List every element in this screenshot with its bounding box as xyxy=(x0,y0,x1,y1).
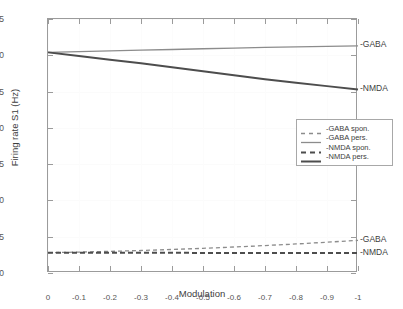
x-tick-label: -0.7 xyxy=(250,294,280,302)
y-tick-label: 30 xyxy=(0,51,4,60)
legend-item[interactable]: -NMDA pers. xyxy=(300,152,388,161)
plot-area: 05101520253035 0-0.1-0.2-0.3-0.4-0.5-0.6… xyxy=(47,18,357,272)
x-tick-label: 0 xyxy=(33,294,63,302)
series-line xyxy=(48,52,358,89)
x-tick-label: -0.3 xyxy=(126,294,156,302)
y-tick-label: 20 xyxy=(0,124,4,133)
legend-item-label: -GABA pers. xyxy=(326,133,368,142)
legend-item-label: -NMDA spon. xyxy=(326,143,371,152)
y-tick-label: 10 xyxy=(0,196,4,205)
y-tick-label: 15 xyxy=(0,160,4,169)
edge-annotation-label: -NMDA xyxy=(360,84,388,93)
x-tick-label: -0.5 xyxy=(188,294,218,302)
series-line xyxy=(48,46,358,53)
x-tick-label: -0.9 xyxy=(312,294,342,302)
y-tick-mark-right xyxy=(351,273,356,274)
legend-item-label: -NMDA pers. xyxy=(326,152,369,161)
legend-line-swatch xyxy=(300,133,322,142)
gridline-horizontal xyxy=(48,273,356,274)
y-tick-mark xyxy=(48,273,53,274)
edge-annotation-label: -GABA xyxy=(360,235,386,244)
legend-item[interactable]: -NMDA spon. xyxy=(300,143,388,152)
y-tick-label: 25 xyxy=(0,88,4,97)
legend-line-swatch xyxy=(300,124,322,133)
legend-line-swatch xyxy=(300,152,322,161)
series-line xyxy=(48,240,358,252)
y-tick-label: 5 xyxy=(0,233,4,242)
legend-box[interactable]: -GABA spon.-GABA pers.-NMDA spon.-NMDA p… xyxy=(296,119,393,166)
y-tick-label: 35 xyxy=(0,15,4,24)
edge-annotation-label: -NMDA xyxy=(360,248,388,257)
x-tick-label: -1 xyxy=(343,294,373,302)
legend-item[interactable]: -GABA pers. xyxy=(300,133,388,142)
x-tick-label: -0.6 xyxy=(219,294,249,302)
legend-item-label: -GABA spon. xyxy=(326,124,369,133)
x-tick-mark xyxy=(358,266,359,271)
legend-item[interactable]: -GABA spon. xyxy=(300,124,388,133)
x-tick-mark-top xyxy=(358,19,359,24)
edge-annotation-label: -GABA xyxy=(360,40,386,49)
y-tick-label: 0 xyxy=(0,269,4,278)
x-tick-label: -0.1 xyxy=(64,294,94,302)
x-tick-label: -0.4 xyxy=(157,294,187,302)
legend-line-swatch xyxy=(300,143,322,152)
figure-container: Firing rate S1 (Hz) Modulation 051015202… xyxy=(0,0,403,309)
x-tick-label: -0.8 xyxy=(281,294,311,302)
y-axis-title: Firing rate S1 (Hz) xyxy=(9,58,20,198)
x-tick-label: -0.2 xyxy=(95,294,125,302)
